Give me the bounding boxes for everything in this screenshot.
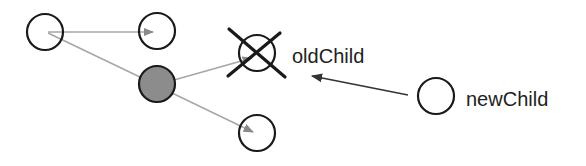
node-replacement-diagram: oldChild newChild xyxy=(0,0,586,166)
node-parent xyxy=(139,66,175,102)
node-child-bottom xyxy=(239,115,275,151)
new-child-label: newChild xyxy=(466,88,548,110)
cross-out-icon xyxy=(228,29,285,77)
replace-arrow xyxy=(312,76,408,95)
node-sibling-top xyxy=(139,13,175,49)
node-new-child xyxy=(418,78,454,114)
old-child-label: oldChild xyxy=(292,45,364,67)
nodes xyxy=(27,13,454,151)
